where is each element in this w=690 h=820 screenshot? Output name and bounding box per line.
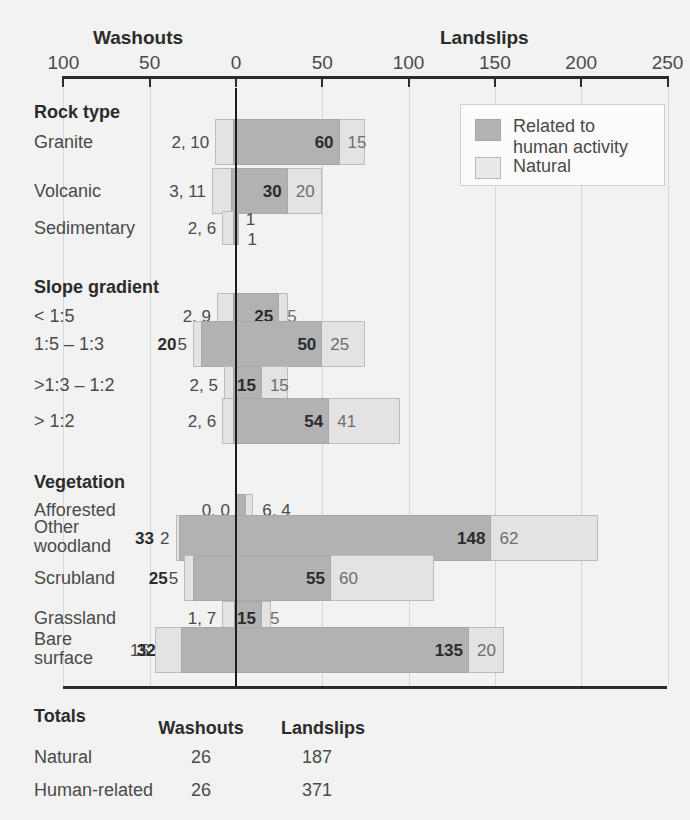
row-right-value-human-0-2: 1 [246, 211, 286, 228]
chart-canvas: WashoutsLandslips10050050100150200250Roc… [0, 0, 690, 820]
totals-row-landslips-1: 371 [262, 780, 372, 801]
axis-tick-label-3: 50 [292, 52, 352, 74]
axis-tick-label-0: 100 [33, 52, 93, 74]
row-label-2-1: Otherwoodland [34, 518, 111, 556]
section-title-0: Rock type [34, 102, 120, 123]
axis-tick-label-4: 100 [379, 52, 439, 74]
row-label-line1: Scrubland [34, 568, 115, 588]
axis-title-landslips: Landslips [440, 27, 529, 49]
legend-label-human-line2: human activity [513, 137, 628, 157]
section-title-2: Vegetation [34, 472, 125, 493]
totals-separator [63, 686, 667, 689]
row-label-0-2: Sedimentary [34, 219, 135, 238]
row-label-line1: Grassland [34, 608, 116, 628]
legend-swatch-natural [475, 157, 501, 179]
zero-axis-line [235, 88, 237, 688]
chart-legend: Related tohuman activityNatural [460, 104, 665, 186]
axis-baseline [63, 76, 667, 79]
row-left-value-human-2-1: 33 [135, 530, 175, 547]
row-label-line1: Volcanic [34, 181, 101, 201]
row-left-value-human-2-4: 32 [137, 642, 177, 659]
row-right-value-natural-1-1: 25 [330, 336, 378, 353]
axis-tick-label-5: 150 [465, 52, 525, 74]
row-right-value-human-1-3: 54 [281, 413, 323, 430]
row-right-value-human-2-2: 55 [283, 570, 325, 587]
row-label-1-3: > 1:2 [34, 412, 75, 431]
axis-tick-label-2: 0 [206, 52, 266, 74]
gridline-250 [668, 88, 669, 686]
totals-row-washouts-1: 26 [146, 780, 256, 801]
legend-label-human-line1: Related to [513, 116, 595, 136]
row-left-value-0-2: 2, 6 [144, 220, 216, 237]
totals-row-label-1: Human-related [34, 780, 153, 801]
row-right-value-human-2-1: 148 [443, 530, 485, 547]
row-left-value-0-0: 2, 10 [137, 134, 209, 151]
row-right-value-natural-2-2: 60 [339, 570, 387, 587]
row-right-value-natural-2-3: 5 [270, 610, 318, 627]
row-label-2-3: Grassland [34, 609, 116, 628]
row-right-value-natural-2-4: 20 [477, 642, 525, 659]
row-label-line1: 1:5 – 1:3 [34, 334, 104, 354]
row-right-value-human-0-0: 60 [292, 134, 334, 151]
row-right-value-natural-1-3: 41 [337, 413, 385, 430]
row-label-2-4: Baresurface [34, 630, 93, 668]
section-title-1: Slope gradient [34, 277, 159, 298]
row-right-value-natural-0-1: 20 [296, 183, 344, 200]
row-label-line2: woodland [34, 536, 111, 556]
row-label-line2: surface [34, 648, 93, 668]
totals-header-washouts: Washouts [146, 718, 256, 739]
legend-label-human: Related tohuman activity [513, 116, 628, 158]
row-label-1-2: >1:3 – 1:2 [34, 376, 115, 395]
row-right-value-natural-1-2: 15 [270, 377, 318, 394]
row-label-1-1: 1:5 – 1:3 [34, 335, 104, 354]
row-label-line1: Other [34, 517, 79, 537]
row-left-value-human-2-2: 25 [149, 570, 189, 587]
legend-swatch-human [475, 119, 501, 141]
totals-row-washouts-0: 26 [146, 747, 256, 768]
row-left-value-human-1-1: 20 [157, 336, 197, 353]
axis-title-washouts: Washouts [93, 27, 183, 49]
row-label-1-0: < 1:5 [34, 307, 75, 326]
row-right-value-natural-0-2: 1 [247, 231, 287, 248]
row-label-line1: < 1:5 [34, 306, 75, 326]
row-label-0-1: Volcanic [34, 182, 101, 201]
row-right-value-human-1-1: 50 [274, 336, 316, 353]
row-right-value-natural-2-1: 62 [499, 530, 547, 547]
totals-header-landslips: Landslips [268, 718, 378, 739]
row-label-line1: Granite [34, 132, 93, 152]
row-label-2-2: Scrubland [34, 569, 115, 588]
row-label-0-0: Granite [34, 133, 93, 152]
axis-tick-label-6: 200 [551, 52, 611, 74]
row-label-line1: Sedimentary [34, 218, 135, 238]
totals-title: Totals [34, 706, 86, 727]
row-left-value-1-3: 2, 6 [144, 413, 216, 430]
row-right-value-human-0-1: 30 [240, 183, 282, 200]
row-label-line1: > 1:2 [34, 411, 75, 431]
row-label-line1: Bare [34, 629, 72, 649]
axis-tick-label-1: 50 [120, 52, 180, 74]
totals-row-label-0: Natural [34, 747, 92, 768]
row-left-value-0-1: 3, 11 [134, 183, 206, 200]
row-left-value-2-3: 1, 7 [144, 610, 216, 627]
row-right-value-natural-0-0: 15 [348, 134, 396, 151]
totals-row-landslips-0: 187 [262, 747, 372, 768]
row-label-line1: >1:3 – 1:2 [34, 375, 115, 395]
axis-tick-label-7: 250 [638, 52, 690, 74]
legend-label-natural: Natural [513, 156, 571, 177]
row-right-value-human-2-4: 135 [421, 642, 463, 659]
row-left-value-1-2: 2, 5 [146, 377, 218, 394]
